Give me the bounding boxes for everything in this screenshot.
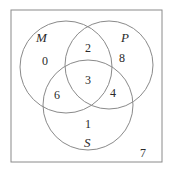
region-m-p: 2: [85, 41, 91, 55]
region-m-only: 0: [42, 54, 48, 68]
region-m-p-s: 3: [85, 73, 91, 87]
region-s-only: 1: [85, 117, 91, 131]
set-m-circle: [20, 21, 112, 113]
region-m-s: 6: [54, 88, 60, 102]
set-p-label: P: [120, 30, 129, 45]
region-p-only: 8: [119, 51, 125, 65]
region-p-s: 4: [110, 86, 116, 100]
set-s-label: S: [84, 135, 91, 150]
venn-diagram: M P S 0 8 1 2 6 4 3 7: [0, 0, 170, 173]
region-outside: 7: [140, 146, 146, 160]
set-m-label: M: [35, 30, 48, 45]
